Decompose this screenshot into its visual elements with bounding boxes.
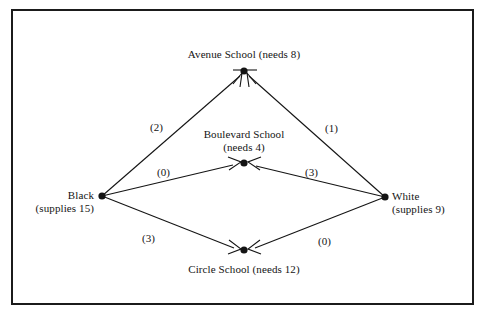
node-label-white-line2: (supplies 9) bbox=[392, 203, 484, 216]
arrowhead-black-circle bbox=[228, 240, 241, 254]
diagram-page: Avenue School (needs 8) Boulevard School… bbox=[0, 0, 488, 313]
arrowhead-black-boulevard bbox=[228, 157, 241, 170]
edge-label-black-circle: (3) bbox=[142, 232, 155, 244]
node-label-boulevard: Boulevard School (needs 4) bbox=[164, 128, 324, 154]
edge-label-white-avenue: (1) bbox=[325, 122, 338, 134]
node-dot-white[interactable] bbox=[381, 193, 388, 200]
node-label-avenue-line1: Avenue School (needs 8) bbox=[144, 48, 344, 61]
node-label-boulevard-line2: (needs 4) bbox=[164, 141, 324, 154]
edge-label-white-circle: (0) bbox=[318, 235, 331, 247]
node-dot-circle[interactable] bbox=[240, 246, 247, 253]
node-label-avenue: Avenue School (needs 8) bbox=[144, 48, 344, 61]
arrowhead-white-avenue bbox=[247, 73, 256, 87]
node-label-white-line1: White bbox=[392, 190, 484, 203]
node-label-black-line1: Black bbox=[8, 189, 94, 202]
edge-label-black-avenue: (2) bbox=[150, 121, 163, 133]
node-dot-black[interactable] bbox=[98, 192, 105, 199]
node-label-black-line2: (supplies 15) bbox=[8, 202, 94, 215]
node-dot-avenue[interactable] bbox=[240, 67, 247, 74]
node-label-white: White (supplies 9) bbox=[392, 190, 484, 216]
arrowhead-white-boulevard bbox=[248, 157, 261, 170]
edge-label-white-boulevard: (3) bbox=[305, 166, 318, 178]
arrowhead-black-avenue bbox=[233, 73, 242, 87]
edge-line-black-circle bbox=[102, 196, 234, 248]
node-label-circle: Circle School (needs 12) bbox=[144, 263, 344, 276]
edge-line-white-boulevard bbox=[256, 166, 385, 197]
node-dot-boulevard[interactable] bbox=[240, 159, 247, 166]
edge-label-black-boulevard: (0) bbox=[157, 166, 170, 178]
node-label-boulevard-line1: Boulevard School bbox=[164, 128, 324, 141]
node-dots bbox=[98, 67, 388, 253]
node-label-black: Black (supplies 15) bbox=[8, 189, 94, 215]
node-label-circle-line1: Circle School (needs 12) bbox=[144, 263, 344, 276]
